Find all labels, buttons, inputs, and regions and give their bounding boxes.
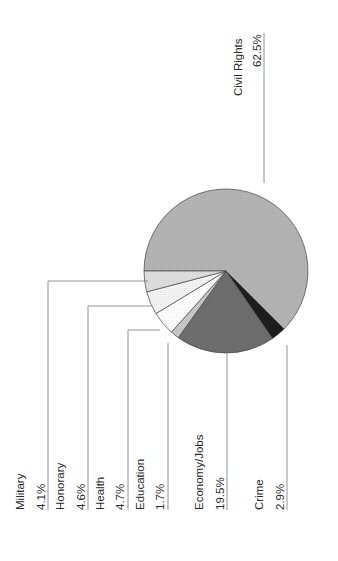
label-honorary-name: Honorary [54, 462, 66, 510]
pie-slices [144, 189, 308, 353]
label-economy-jobs-name: Economy/Jobs [193, 434, 205, 510]
label-military-name: Military [14, 473, 26, 510]
pie-chart: Civil Rights 62.5% Military 4.1% Honorar… [0, 0, 338, 561]
label-economy-jobs-value: 19.5% [214, 477, 226, 510]
label-civil-rights-value: 62.5% [251, 34, 263, 67]
label-crime-value: 2.9% [274, 484, 286, 510]
label-education-value: 1.7% [154, 484, 166, 510]
label-crime-name: Crime [253, 479, 265, 510]
label-civil-rights-name: Civil Rights [232, 38, 244, 96]
label-honorary-value: 4.6% [75, 484, 87, 510]
label-health-value: 4.7% [114, 484, 126, 510]
label-military-value: 4.1% [35, 484, 47, 510]
label-education-name: Education [134, 459, 146, 510]
label-health-name: Health [94, 477, 106, 510]
